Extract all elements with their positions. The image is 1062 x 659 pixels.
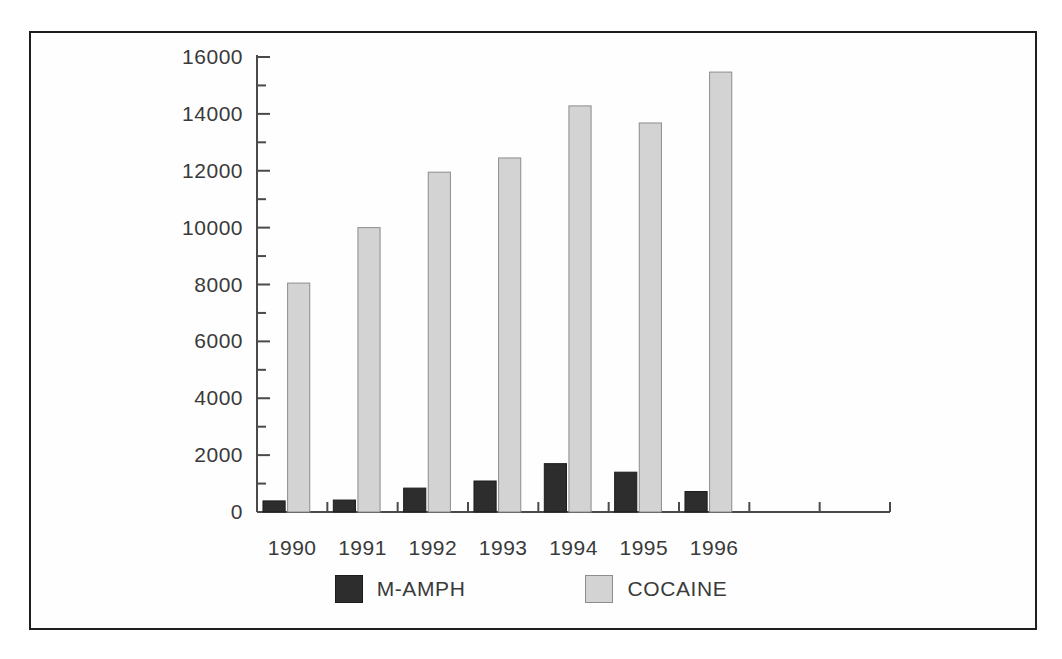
legend-item-m-amph[interactable]: M-AMPH bbox=[335, 575, 466, 603]
y-tick-label: 10000 bbox=[0, 216, 243, 240]
legend-swatch-cocaine bbox=[585, 575, 613, 603]
x-tick-label: 1990 bbox=[268, 536, 317, 560]
y-tick-label: 4000 bbox=[0, 386, 243, 410]
y-tick-label: 8000 bbox=[0, 273, 243, 297]
chart-legend: M-AMPH COCAINE bbox=[0, 575, 1062, 603]
legend-item-cocaine[interactable]: COCAINE bbox=[585, 575, 727, 603]
y-tick-label: 12000 bbox=[0, 159, 243, 183]
x-tick-label: 1993 bbox=[479, 536, 528, 560]
y-tick-label: 0 bbox=[0, 500, 243, 524]
x-tick-label: 1991 bbox=[338, 536, 387, 560]
y-tick-label: 16000 bbox=[0, 45, 243, 69]
x-tick-label: 1996 bbox=[690, 536, 739, 560]
y-tick-label: 2000 bbox=[0, 443, 243, 467]
y-tick-label: 14000 bbox=[0, 102, 243, 126]
x-tick-label: 1992 bbox=[408, 536, 457, 560]
legend-label-m-amph: M-AMPH bbox=[377, 577, 466, 601]
legend-swatch-m-amph bbox=[335, 575, 363, 603]
legend-label-cocaine: COCAINE bbox=[627, 577, 727, 601]
x-tick-label: 1995 bbox=[619, 536, 668, 560]
y-tick-label: 6000 bbox=[0, 329, 243, 353]
x-tick-label: 1994 bbox=[549, 536, 598, 560]
